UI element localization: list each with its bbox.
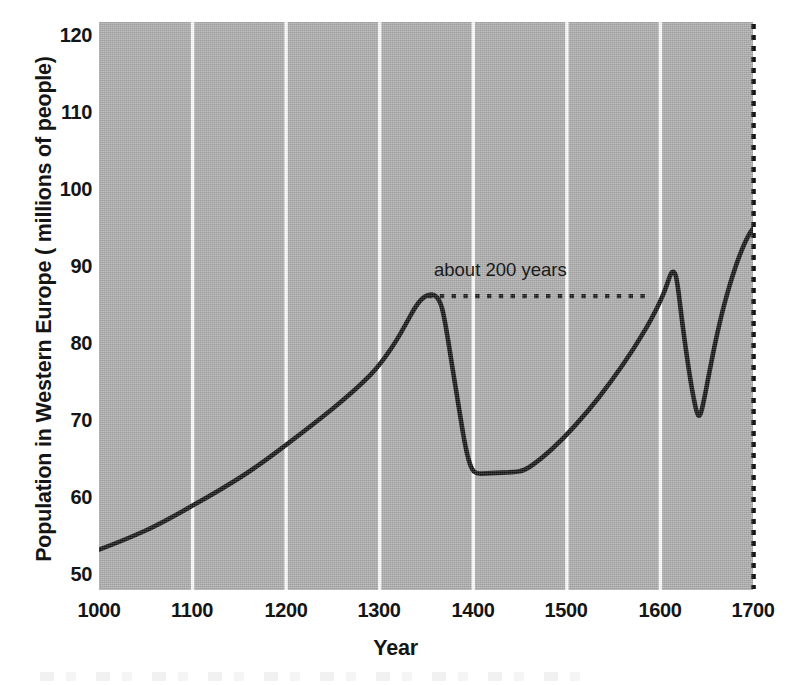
population-chart-figure: 120 110 100 90 80 70 60 50 1000 1100 120… [0, 0, 791, 685]
y-tick-label-80: 80 [38, 332, 92, 355]
x-tick-label-1700: 1700 [708, 599, 791, 622]
x-tick-label-1000: 1000 [54, 599, 144, 622]
y-tick-label-110: 110 [38, 101, 92, 124]
x-tick-label-1600: 1600 [615, 599, 705, 622]
y-tick-label-70: 70 [38, 409, 92, 432]
annotation-label-about-200-years: about 200 years [434, 259, 567, 281]
page-scan-artifact [40, 672, 600, 681]
x-tick-label-1300: 1300 [334, 599, 424, 622]
y-tick-label-100: 100 [38, 178, 92, 201]
y-tick-label-120: 120 [38, 24, 92, 47]
x-tick-label-1200: 1200 [241, 599, 331, 622]
x-axis-title: Year [0, 636, 791, 661]
x-tick-label-1500: 1500 [521, 599, 611, 622]
chart-canvas [0, 0, 791, 685]
y-tick-label-60: 60 [38, 486, 92, 509]
x-tick-label-1100: 1100 [147, 599, 237, 622]
x-tick-label-1400: 1400 [428, 599, 518, 622]
y-tick-label-90: 90 [38, 255, 92, 278]
y-tick-label-50: 50 [38, 563, 92, 586]
